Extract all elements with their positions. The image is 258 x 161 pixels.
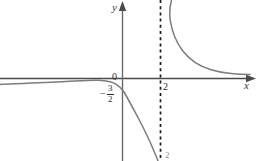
- x-axis: [0, 75, 256, 82]
- graph-figure: y x 0 2 − 3 2 2: [0, 0, 258, 161]
- y-axis-label: y: [112, 2, 117, 13]
- fraction-three-halves: 3 2: [107, 84, 114, 104]
- x-tick-label-2: 2: [163, 82, 168, 92]
- y-intercept-label: − 3 2: [100, 84, 114, 104]
- fraction-numerator: 3: [107, 84, 114, 93]
- fraction-denominator: 2: [107, 95, 114, 104]
- minus-sign: −: [100, 89, 106, 99]
- bottom-cutoff-label: 2: [165, 151, 170, 160]
- plot-canvas: [0, 0, 258, 161]
- x-axis-label: x: [244, 80, 249, 91]
- y-axis: [119, 1, 126, 161]
- curve-right-branch: [170, 0, 250, 75]
- origin-label: 0: [112, 72, 117, 82]
- curve-left-branch: [0, 80, 158, 161]
